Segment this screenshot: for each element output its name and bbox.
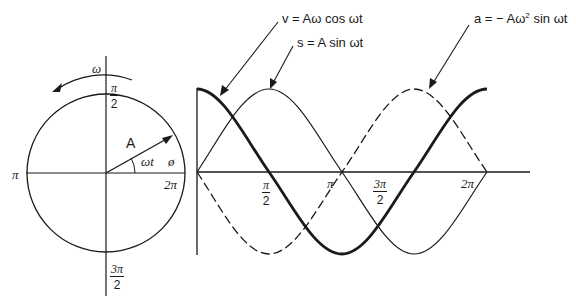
leader-arrows — [220, 22, 469, 96]
tick-pi-over-2: π 2 — [262, 179, 270, 207]
velocity-label: v = Aω cos ωt — [282, 12, 363, 25]
circle-label-pi-over-2: π 2 — [110, 82, 118, 110]
omega-label: ω — [92, 62, 101, 75]
phase-label: ø — [168, 155, 175, 168]
displacement-label: s = A sin ωt — [297, 36, 363, 49]
graph-axes — [197, 88, 530, 255]
angle-label: ωt — [141, 155, 154, 168]
tick-2pi: 2π — [461, 177, 474, 190]
reference-circle — [26, 56, 185, 296]
circle-label-pi: π — [12, 168, 19, 181]
tick-pi: π — [327, 177, 334, 190]
shm-diagram — [0, 0, 576, 305]
tick-3pi-over-2: 3π 2 — [373, 178, 387, 206]
circle-label-2pi: 2π — [164, 178, 177, 191]
acceleration-label: a = − Aω2 sin ωt — [474, 12, 567, 25]
circle-label-3pi-over-2: 3π 2 — [110, 263, 124, 291]
radius-label: A — [126, 136, 135, 150]
